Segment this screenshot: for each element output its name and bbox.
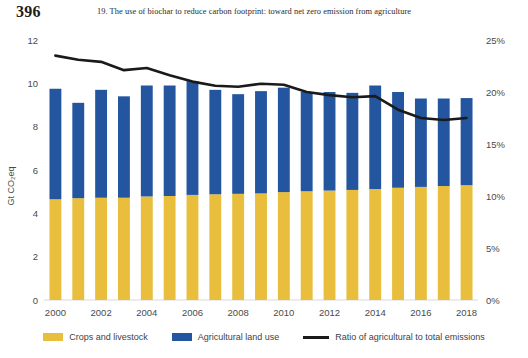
y-axis-right-tick-label: 5% [486,243,500,254]
bar-segment-crops-and-livestock [415,187,427,300]
bar-segment-agricultural-land-use [164,86,176,197]
bar-segment-agricultural-land-use [369,86,381,190]
legend-item-crops-and-livestock[interactable]: Crops and livestock [43,332,148,342]
x-axis-tick-label: 2004 [136,307,157,318]
bar-segment-crops-and-livestock [461,185,473,300]
legend-label-crops: Crops and livestock [69,332,148,342]
legend-label-land-use: Agricultural land use [198,332,280,342]
x-axis-tick-label: 2018 [456,307,477,318]
bar-segment-crops-and-livestock [346,190,358,300]
running-head: 19. The use of biochar to reduce carbon … [97,7,411,16]
bar-segment-agricultural-land-use [438,99,450,187]
bar-segment-agricultural-land-use [141,86,153,197]
bar-segment-agricultural-land-use [301,92,313,191]
x-axis-tick-label: 2012 [319,307,340,318]
bar-segment-crops-and-livestock [278,192,290,300]
legend-item-agricultural-land-use[interactable]: Agricultural land use [172,332,280,342]
y-axis-left-tick-label: 0 [33,295,38,306]
y-axis-left-tick-label: 2 [33,251,38,262]
bar-segment-agricultural-land-use [118,96,130,197]
bar-series-agricultural-land-use [49,81,472,199]
bar-segment-crops-and-livestock [187,195,199,300]
x-axis-tick-label: 2010 [273,307,294,318]
bar-segment-agricultural-land-use [95,90,107,198]
y-axis-right-tick-label: 25% [486,35,506,46]
y-axis-left-ticks: 024681012 [27,35,38,306]
bar-segment-agricultural-land-use [209,90,221,194]
x-axis-tick-label: 2006 [182,307,203,318]
bar-segment-crops-and-livestock [438,186,450,300]
y-axis-right-ticks: 0%5%10%15%20%25% [486,35,506,306]
y-axis-left-tick-label: 10 [27,78,38,89]
bar-segment-crops-and-livestock [141,196,153,300]
bar-segment-agricultural-land-use [232,94,244,194]
bar-segment-crops-and-livestock [369,189,381,300]
bar-segment-agricultural-land-use [187,81,199,195]
chart-legend: Crops and livestock Agricultural land us… [0,322,528,352]
y-axis-title: Gt CO₂eq [6,166,16,205]
legend-swatch-icon-land-use [172,333,192,341]
bar-segment-agricultural-land-use [255,91,267,193]
bar-segment-agricultural-land-use [461,98,473,185]
bar-segment-agricultural-land-use [278,88,290,192]
bar-segment-crops-and-livestock [255,193,267,300]
x-axis-tick-label: 2008 [228,307,249,318]
page-header: 396 19. The use of biochar to reduce car… [0,0,528,26]
bar-segment-crops-and-livestock [232,194,244,300]
bar-segment-crops-and-livestock [72,198,84,300]
legend-label-ratio: Ratio of agricultural to total emissions [335,332,485,342]
bar-segment-crops-and-livestock [324,191,336,300]
y-axis-left-tick-label: 6 [33,165,38,176]
bar-segment-crops-and-livestock [301,191,313,300]
bar-segment-agricultural-land-use [346,93,358,190]
bar-segment-crops-and-livestock [392,188,404,300]
legend-swatch-icon-crops [43,333,63,341]
x-axis-tick-label: 2014 [365,307,386,318]
x-axis-tick-label: 2002 [91,307,112,318]
bar-series-crops-and-livestock [49,185,472,300]
y-axis-left-tick-label: 8 [33,121,38,132]
y-axis-right-tick-label: 10% [486,191,506,202]
bar-segment-agricultural-land-use [72,103,84,198]
bar-segment-crops-and-livestock [118,198,130,300]
bar-segment-crops-and-livestock [209,194,221,300]
y-axis-left-tick-label: 12 [27,35,38,46]
y-axis-right-tick-label: 15% [486,139,506,150]
legend-line-icon-ratio [303,336,329,339]
bar-segment-crops-and-livestock [95,198,107,300]
bar-segment-crops-and-livestock [49,199,61,300]
bar-segment-agricultural-land-use [49,89,61,200]
y-axis-right-tick-label: 20% [486,87,506,98]
y-axis-left-tick-label: 4 [33,208,38,219]
page-number: 396 [16,3,41,21]
bar-segment-crops-and-livestock [164,196,176,300]
x-axis-ticks: 2000200220042006200820102012201420162018 [45,307,477,318]
x-axis-tick-label: 2000 [45,307,66,318]
y-axis-right-tick-label: 0% [486,295,500,306]
bar-segment-agricultural-land-use [415,99,427,187]
bar-segment-agricultural-land-use [324,92,336,191]
figure-stacked-bar-chart: 024681012 0%5%10%15%20%25% Gt CO₂eq 2000… [0,26,528,358]
chart-plot-area: 024681012 0%5%10%15%20%25% Gt CO₂eq 2000… [0,26,528,326]
x-axis-tick-label: 2016 [410,307,431,318]
legend-item-ratio[interactable]: Ratio of agricultural to total emissions [303,332,485,342]
